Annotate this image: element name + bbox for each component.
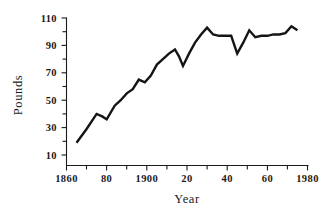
y-axis-title: Pounds	[11, 75, 25, 115]
y-tick-label-30: 30	[46, 122, 57, 133]
y-axis-minor-ticks	[63, 32, 67, 142]
chart-figure: Pounds 110 90 70 50 30 10	[0, 0, 332, 215]
data-series-pounds	[77, 26, 298, 142]
x-tick-label-1960: 60	[262, 173, 273, 184]
y-tick-label-90: 90	[46, 40, 57, 51]
x-axis-title: Year	[174, 192, 200, 206]
y-tick-label-50: 50	[46, 95, 57, 106]
y-tick-label-110: 110	[41, 13, 57, 24]
axis-spines	[67, 18, 309, 166]
x-tick-label-1880: 80	[101, 173, 112, 184]
line-chart-svg: Pounds 110 90 70 50 30 10	[0, 0, 332, 215]
x-tick-label-1980: 1980	[296, 173, 319, 184]
y-tick-label-10: 10	[46, 150, 57, 161]
y-tick-label-70: 70	[46, 67, 57, 78]
x-tick-label-1940: 40	[222, 173, 233, 184]
x-axis-major-ticks	[67, 166, 308, 171]
x-tick-label-1860: 1860	[55, 173, 78, 184]
x-tick-label-1900: 1900	[135, 173, 158, 184]
x-tick-label-1920: 20	[181, 173, 192, 184]
